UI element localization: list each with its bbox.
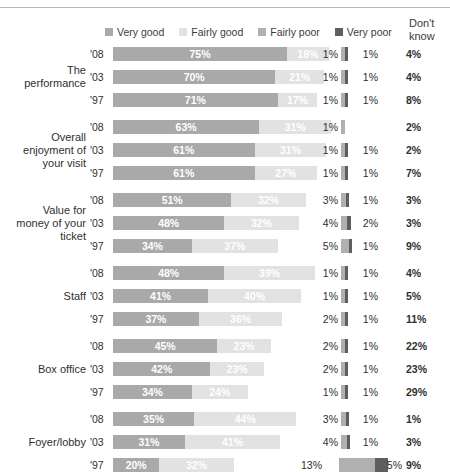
dont-know-value: 2% xyxy=(406,143,432,157)
dont-know-value: 2% xyxy=(406,120,432,134)
row-year-label: '97 xyxy=(90,385,110,399)
bar-value-label-very-good: 61% xyxy=(113,143,255,157)
bar-value-label-fairly-poor: 3% xyxy=(316,412,338,426)
bar-segment-very-poor[interactable] xyxy=(345,166,348,180)
bar-value-label-very-poor: 2% xyxy=(356,216,378,230)
chart-row: '0875%18%1%1%4% xyxy=(0,47,450,61)
dont-know-value: 7% xyxy=(406,166,432,180)
stacked-bar-track: 42%23% xyxy=(113,362,345,376)
bar-value-label-fairly-poor: 4% xyxy=(316,435,338,449)
bar-value-label-fairly-good: 27% xyxy=(255,166,318,180)
dont-know-value: 1% xyxy=(406,412,432,426)
chart-row: '0348%32%4%2%3% xyxy=(0,216,450,230)
bar-value-label-fairly-good: 44% xyxy=(194,412,296,426)
bar-value-label-fairly-poor: 1% xyxy=(316,266,338,280)
bar-value-label-very-poor: 1% xyxy=(356,239,378,253)
dont-know-value: 4% xyxy=(406,70,432,84)
bar-value-label-fairly-good: 23% xyxy=(210,362,263,376)
chart-row: '0341%40%1%1%5% xyxy=(0,289,450,303)
row-year-label: '97 xyxy=(90,166,110,180)
row-year-label: '03 xyxy=(90,289,110,303)
bar-value-label-very-poor: 5% xyxy=(380,458,402,472)
dont-know-value: 3% xyxy=(406,435,432,449)
chart-row: '0361%31%1%1%2% xyxy=(0,143,450,157)
stacked-bar-track: 70%21% xyxy=(113,70,345,84)
bar-segment-very-poor[interactable] xyxy=(345,70,348,84)
chart-row: '0342%23%2%1%23% xyxy=(0,362,450,376)
stacked-bar-track: 31%41% xyxy=(113,435,345,449)
chart-row: '0835%44%3%1%1% xyxy=(0,412,450,426)
bar-segment-very-poor[interactable] xyxy=(347,216,350,230)
legend-swatch-icon xyxy=(105,28,113,36)
bar-value-label-fairly-good: 23% xyxy=(217,339,270,353)
row-year-label: '97 xyxy=(90,312,110,326)
bar-value-label-fairly-poor: 2% xyxy=(316,312,338,326)
chart-row: '0845%23%2%1%22% xyxy=(0,339,450,353)
stacked-bar-track: 41%40% xyxy=(113,289,345,303)
bar-value-label-very-good: 42% xyxy=(113,362,210,376)
dont-know-value: 9% xyxy=(406,458,432,472)
bar-segment-very-poor[interactable] xyxy=(345,47,348,61)
chart-group: Box office'0845%23%2%1%22%'0342%23%2%1%2… xyxy=(0,339,450,399)
bar-segment-very-poor[interactable] xyxy=(346,412,349,426)
legend-item-fairly-good[interactable]: Fairly good xyxy=(179,26,243,38)
bar-value-label-fairly-poor: 1% xyxy=(316,70,338,84)
bar-value-label-very-poor: 1% xyxy=(356,166,378,180)
chart-legend: Very goodFairly goodFairly poorVery poor xyxy=(105,26,392,38)
bar-value-label-very-poor: 1% xyxy=(356,93,378,107)
bar-value-label-fairly-good: 37% xyxy=(192,239,278,253)
stacked-bar-track: 63%31% xyxy=(113,120,345,134)
bar-value-label-very-poor: 1% xyxy=(356,435,378,449)
bar-value-label-very-good: 75% xyxy=(113,47,287,61)
row-year-label: '03 xyxy=(90,70,110,84)
bar-segment-fairly-poor[interactable] xyxy=(341,120,345,134)
dont-know-value: 3% xyxy=(406,216,432,230)
dont-know-value: 29% xyxy=(406,385,432,399)
chart-row: '0848%39%1%1%4% xyxy=(0,266,450,280)
bar-value-label-fairly-good: 32% xyxy=(231,193,305,207)
stacked-bar-track: 61%27% xyxy=(113,166,345,180)
bar-value-label-very-poor: 1% xyxy=(356,412,378,426)
stacked-bar-track: 71%17% xyxy=(113,93,345,107)
bar-segment-very-poor[interactable] xyxy=(345,362,348,376)
bar-value-label-fairly-poor: 5% xyxy=(316,239,338,253)
bar-segment-very-poor[interactable] xyxy=(345,143,348,157)
bar-value-label-fairly-good: 17% xyxy=(278,93,317,107)
dont-know-header-line-2: know xyxy=(409,30,450,43)
dont-know-value: 11% xyxy=(406,312,432,326)
bar-segment-very-poor[interactable] xyxy=(345,289,348,303)
bar-value-label-fairly-poor: 2% xyxy=(316,362,338,376)
chart-row: '0331%41%4%1%3% xyxy=(0,435,450,449)
row-year-label: '03 xyxy=(90,435,110,449)
bar-segment-very-poor[interactable] xyxy=(345,385,348,399)
stacked-bar-track: 51%32% xyxy=(113,193,345,207)
bar-segment-very-poor[interactable] xyxy=(345,93,348,107)
legend-item-fairly-poor[interactable]: Fairly poor xyxy=(258,26,320,38)
legend-item-very-poor[interactable]: Very poor xyxy=(335,26,392,38)
top-divider xyxy=(0,7,450,8)
bar-segment-very-poor[interactable] xyxy=(345,266,348,280)
row-year-label: '08 xyxy=(90,339,110,353)
row-year-label: '03 xyxy=(90,143,110,157)
row-year-label: '08 xyxy=(90,120,110,134)
bar-value-label-fairly-poor: 1% xyxy=(316,120,338,134)
bar-value-label-very-poor: 1% xyxy=(356,312,378,326)
bar-segment-fairly-poor[interactable] xyxy=(339,458,375,472)
chart-group: Value formoney of yourticket'0851%32%3%1… xyxy=(0,193,450,253)
bar-segment-very-poor[interactable] xyxy=(345,312,348,326)
bar-segment-very-poor[interactable] xyxy=(347,435,350,449)
bar-value-label-very-good: 20% xyxy=(113,458,159,472)
row-year-label: '97 xyxy=(90,239,110,253)
bar-value-label-very-good: 34% xyxy=(113,239,192,253)
bar-value-label-very-good: 41% xyxy=(113,289,208,303)
dont-know-column-header: Don't know xyxy=(409,17,450,43)
legend-item-very-good[interactable]: Very good xyxy=(105,26,164,38)
dont-know-value: 4% xyxy=(406,266,432,280)
bar-value-label-fairly-poor: 1% xyxy=(316,93,338,107)
bar-segment-very-poor[interactable] xyxy=(345,339,348,353)
bar-value-label-fairly-poor: 1% xyxy=(316,143,338,157)
bar-segment-fairly-poor[interactable] xyxy=(341,239,349,253)
stacked-bar-track: 48%32% xyxy=(113,216,345,230)
bar-segment-very-poor[interactable] xyxy=(349,239,352,253)
bar-segment-very-poor[interactable] xyxy=(346,193,349,207)
